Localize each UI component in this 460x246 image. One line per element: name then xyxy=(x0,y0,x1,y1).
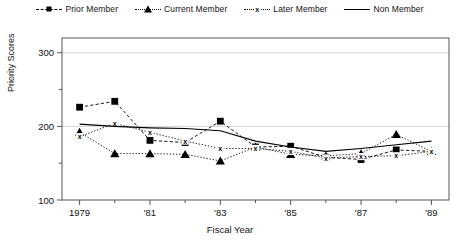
svg-text:x: x xyxy=(289,148,293,155)
x-tick-labels: 1979'81'83'85'87'89 xyxy=(69,207,438,218)
gridlines xyxy=(62,53,449,127)
svg-text:x: x xyxy=(254,145,258,152)
y-tick-label: 300 xyxy=(38,47,54,58)
y-tick-label: 200 xyxy=(38,121,54,132)
svg-text:x: x xyxy=(394,152,398,159)
y-tick-labels: 100200300 xyxy=(38,47,54,205)
y-tick-label: 100 xyxy=(38,195,54,206)
x-tick-label: '85 xyxy=(284,207,296,218)
plot-area: 100200300 1979'81'83'85'87'89 xxxxxxxxxx… xyxy=(0,0,460,246)
svg-text:x: x xyxy=(218,145,222,152)
plot-frame xyxy=(62,38,449,200)
data-series: xxxxxxxxxxx xyxy=(75,98,436,165)
x-tick-label: '81 xyxy=(144,207,156,218)
svg-text:x: x xyxy=(183,138,187,145)
svg-text:x: x xyxy=(78,133,82,140)
svg-text:x: x xyxy=(148,129,152,136)
svg-text:x: x xyxy=(429,148,433,155)
x-tick-label: '83 xyxy=(214,207,226,218)
x-tick-label: '87 xyxy=(355,207,367,218)
svg-text:x: x xyxy=(324,155,328,162)
svg-text:x: x xyxy=(359,153,363,160)
x-tick-label: 1979 xyxy=(69,207,90,218)
chart-container: Prior Member Current Member x Later Memb… xyxy=(0,0,460,246)
series-prior-member xyxy=(76,98,435,163)
x-tick-label: '89 xyxy=(425,207,437,218)
axis-ticks xyxy=(57,53,431,205)
